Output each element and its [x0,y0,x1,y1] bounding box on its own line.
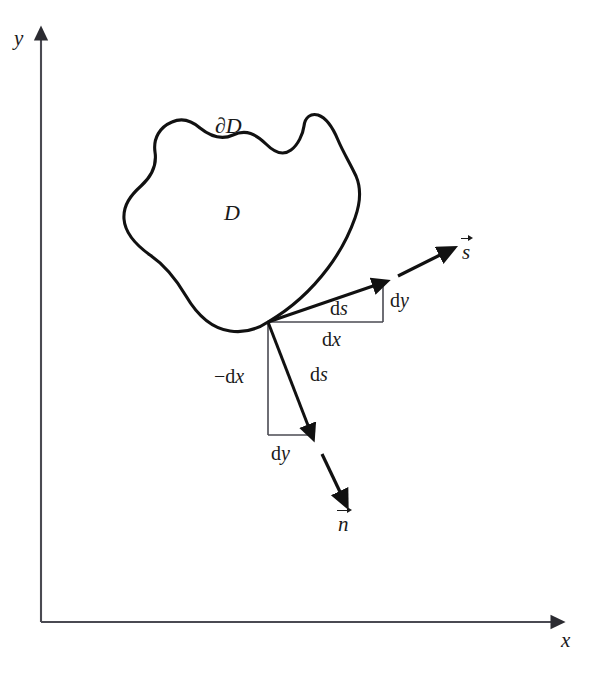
tangent-ds-label: ds [330,298,348,318]
tangent-dx-label: dx [322,329,341,349]
tangent-vector-symbol: s [462,240,470,263]
y-axis-label: y [14,28,23,49]
x-axis-label: x [561,630,570,651]
arrow-head [468,235,473,241]
right-arrow-overbar-icon [337,507,352,514]
normal-vector-label: n [338,512,349,535]
normal-dy-label: dy [271,443,290,463]
tangent-ds-label-var: s [340,297,348,319]
normal-neg-dx-label-var: x [235,365,244,387]
normal-vector-n-arrow [322,454,341,494]
tangent-dy-label: dy [390,290,409,310]
normal-neg-dx-label: −dx [214,366,244,386]
normal-ds-arrow [268,322,309,428]
normal-dy-label-var: y [281,442,290,464]
tangent-vector-letter: s [462,240,470,264]
normal-vector-letter: n [338,512,349,536]
normal-vector-symbol: n [338,512,349,535]
arrow-head [347,507,352,513]
region-interior-label: D [224,202,240,224]
tangent-dy-label-var: y [400,289,409,311]
normal-ds-label-var: s [320,363,328,385]
tangent-vector-label: s [462,240,470,263]
normal-ds-label: ds [310,364,328,384]
region-boundary-curve [124,114,360,331]
tangent-dx-label-var: x [332,328,341,350]
right-arrow-overbar-icon [461,235,473,242]
tangent-vector-s-arrow [398,254,442,276]
diagram-svg [0,0,603,677]
figure-canvas: y x D ∂D ds dy dx ds −dx dy s n [0,0,603,677]
region-boundary-label: ∂D [215,115,242,137]
